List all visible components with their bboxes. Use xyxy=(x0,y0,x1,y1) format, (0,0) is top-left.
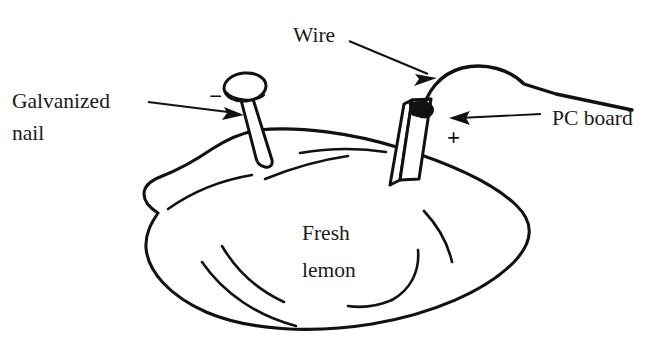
label-fresh-line1: Fresh xyxy=(302,221,350,245)
lemon-battery-figure: Galvanized nail Wire PC board Fresh lemo… xyxy=(0,0,664,349)
pc-board-graphic xyxy=(390,99,434,185)
lemon-texture-arc-3 xyxy=(300,149,386,153)
lemon-texture-arc-8 xyxy=(348,300,392,307)
lemon-texture-arc-6 xyxy=(424,211,452,262)
negative-sign-label: − xyxy=(209,84,222,109)
label-pc-board: PC board xyxy=(552,106,633,130)
label-galvanized-nail-line2: nail xyxy=(12,121,44,145)
positive-sign-label: + xyxy=(447,125,460,150)
label-wire: Wire xyxy=(293,23,335,47)
leader-wire xyxy=(349,41,428,74)
lemon-texture-arc-2 xyxy=(265,156,348,179)
leader-pc-board xyxy=(459,114,541,118)
lemon-texture-arc-7 xyxy=(392,250,418,300)
label-fresh-line2: lemon xyxy=(302,258,356,282)
galvanized-nail-graphic xyxy=(223,71,273,167)
leader-galvanized-nail xyxy=(148,102,236,113)
diagram-canvas: Galvanized nail Wire PC board Fresh lemo… xyxy=(0,0,664,349)
leader-lines xyxy=(148,41,541,125)
label-galvanized-nail-line1: Galvanized xyxy=(12,89,110,113)
lemon-texture-arc-1 xyxy=(168,175,252,209)
arrowhead-wire xyxy=(414,74,437,86)
arrowhead-galvanized-nail xyxy=(222,107,244,120)
